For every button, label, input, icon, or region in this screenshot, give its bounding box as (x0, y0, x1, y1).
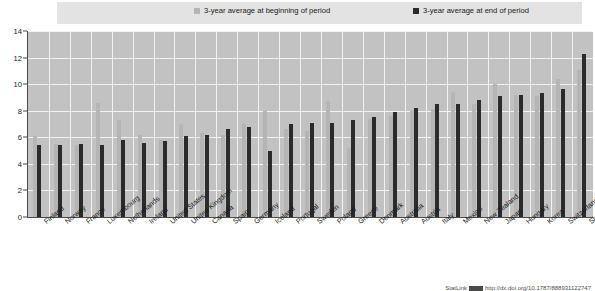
bar-light (326, 101, 330, 217)
bar-light (431, 109, 435, 217)
x-axis-tick-label: Ireland (147, 219, 153, 226)
y-axis-tick-label: 4 (0, 159, 22, 168)
gridline (28, 111, 593, 112)
bar-light (577, 70, 581, 217)
bar-dark (37, 145, 41, 217)
x-axis-tick-label: France (84, 219, 90, 226)
gridline-vertical (551, 31, 552, 217)
gridline-vertical (154, 31, 155, 217)
chart-plot-wrapper: 02468101214 (0, 28, 595, 220)
bar-dark (498, 96, 502, 217)
gridline-vertical (572, 31, 573, 217)
gridline-vertical (49, 31, 50, 217)
x-axis-tick-label: New Zealand (482, 219, 488, 226)
statlink-label: StatLink (445, 285, 467, 291)
gridline-vertical (447, 31, 448, 217)
gridline-vertical (258, 31, 259, 217)
square-swatch-icon (413, 8, 419, 14)
gridline-vertical (363, 31, 364, 217)
y-axis-tick-label: 14 (0, 27, 22, 36)
bar-dark (351, 120, 355, 217)
legend-label: 3-year average at beginning of period (204, 6, 330, 15)
bar-light (263, 111, 267, 217)
x-axis-tick-label: Japan (503, 219, 509, 226)
square-swatch-icon (194, 8, 200, 14)
bar-light (221, 135, 225, 217)
bar-light (242, 124, 246, 217)
gridline-vertical (70, 31, 71, 217)
x-axis-tick-label: Netherlands (126, 219, 132, 226)
x-axis-tick-label: Luxembourg (105, 219, 111, 226)
bar-dark (372, 117, 376, 217)
bar-dark (561, 89, 565, 217)
x-axis-tick-label: Austria (419, 219, 425, 226)
gridline-vertical (112, 31, 113, 217)
bar-light (117, 120, 121, 217)
gridline-vertical (530, 31, 531, 217)
x-axis-tick-label: Denmark (377, 219, 383, 226)
bar-dark (414, 108, 418, 217)
gridline-vertical (91, 31, 92, 217)
gridline-vertical (509, 31, 510, 217)
y-axis-tick-label: 10 (0, 80, 22, 89)
legend-label: 3-year average at end of period (423, 6, 529, 15)
gridline-vertical (405, 31, 406, 217)
x-axis-labels: FinlandNorwayFranceLuxembourgNetherlands… (0, 219, 595, 279)
bar-light (200, 133, 204, 217)
bar-dark (456, 104, 460, 217)
x-axis-tick-label: Iceland (273, 219, 279, 226)
bar-light (493, 84, 497, 217)
bar-dark (477, 100, 481, 217)
gridline-vertical (133, 31, 134, 217)
x-axis-tick-label: Poland (335, 219, 341, 226)
x-axis-tick-label: Sweden (315, 219, 321, 226)
gridline-vertical (384, 31, 385, 217)
bar-light (179, 124, 183, 217)
x-axis-tick-label: Australia (398, 219, 404, 226)
bar-light (368, 119, 372, 217)
x-axis-tick-label: Canada (210, 219, 216, 226)
gridline (28, 84, 593, 85)
x-axis-tick-label: Norway (63, 219, 69, 226)
statlink-url: http://dx.doi.org/10.1787/888931122747 (485, 285, 591, 291)
x-axis-tick-label: Mexico (461, 219, 467, 226)
bar-light (389, 116, 393, 217)
chart-legend: 3-year average at beginning of period 3-… (57, 2, 582, 24)
x-axis-tick-label: Germany (252, 219, 258, 226)
plot-area (27, 31, 593, 218)
y-axis-tick-label: 6 (0, 133, 22, 142)
gridline-vertical (488, 31, 489, 217)
x-axis-tick-label: Greece (356, 219, 362, 226)
bar-dark (247, 127, 251, 217)
bar-dark (289, 124, 293, 217)
bar-light (410, 111, 414, 217)
x-axis-tick-label: Hungary (524, 219, 530, 226)
gridline-vertical (195, 31, 196, 217)
legend-item-beginning: 3-year average at beginning of period (194, 6, 330, 15)
y-axis-tick-label: 12 (0, 53, 22, 62)
bar-dark (582, 54, 586, 217)
bar-light (284, 129, 288, 217)
y-axis: 02468101214 (0, 28, 27, 220)
gridline-vertical (279, 31, 280, 217)
bar-dark (540, 93, 544, 217)
bar-light (33, 136, 37, 217)
x-axis-tick-label: Spain (231, 219, 237, 226)
gridline-vertical (467, 31, 468, 217)
gridline-vertical (426, 31, 427, 217)
gridline-vertical (216, 31, 217, 217)
bar-light (96, 103, 100, 217)
gridline-vertical (321, 31, 322, 217)
x-axis-tick-label: Slovak Republic (587, 219, 593, 226)
statlink-footer: StatLinkhttp://dx.doi.org/10.1787/888931… (445, 285, 591, 291)
x-axis-tick-label: Korea (545, 219, 551, 226)
bar-light (472, 104, 476, 217)
x-axis-tick-label: Finland (42, 219, 48, 226)
bar-dark (435, 104, 439, 217)
gridline-vertical (342, 31, 343, 217)
x-axis-tick-label: United States (168, 219, 174, 226)
statlink-icon (469, 286, 483, 291)
bar-light (556, 79, 560, 217)
bar-light (535, 96, 539, 217)
x-axis-tick-label: Switzerland (566, 219, 572, 226)
